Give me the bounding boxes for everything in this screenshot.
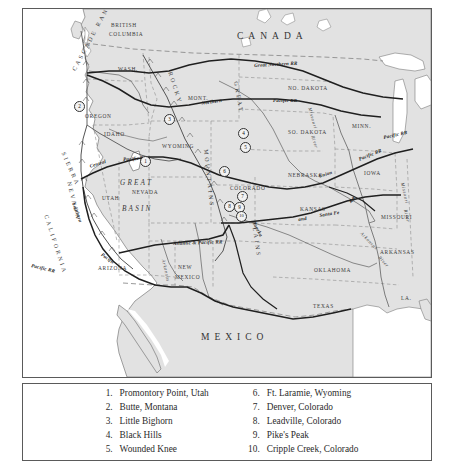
legend-item: 4.Black Hills [96, 430, 209, 442]
map-marker-6[interactable]: 6 [219, 166, 230, 177]
legend-item-label: Pike's Peak [267, 430, 309, 442]
legend-item-label: Wounded Knee [120, 444, 177, 456]
legend-item-number: 1. [96, 388, 113, 400]
legend-item-number: 5. [96, 444, 113, 456]
legend-item-number: 2. [96, 402, 113, 414]
legend-item: 6.Ft. Laramie, Wyoming [243, 388, 359, 400]
legend-item: 5.Wounded Knee [96, 444, 209, 456]
legend-item-label: Ft. Laramie, Wyoming [267, 388, 351, 400]
legend-item-number: 10. [243, 444, 260, 456]
legend-item: 8.Leadville, Colorado [243, 416, 359, 428]
legend-item-number: 4. [96, 430, 113, 442]
gulf-of-mexico [353, 305, 431, 377]
map-marker-4[interactable]: 4 [238, 128, 249, 139]
legend-item: 1.Promontory Point, Utah [96, 388, 209, 400]
legend-item-number: 8. [243, 416, 260, 428]
map-marker-3[interactable]: 3 [164, 114, 175, 125]
legend-item-number: 7. [243, 402, 260, 414]
map-marker-7[interactable]: 7 [237, 191, 248, 202]
legend-item-label: Black Hills [120, 430, 162, 442]
legend-item-label: Butte, Montana [120, 402, 178, 414]
legend-item: 10.Cripple Creek, Colorado [243, 444, 359, 456]
legend-item-number: 9. [243, 430, 260, 442]
map-marker-2[interactable]: 2 [74, 101, 85, 112]
map-panel: CANADAMEXICOBRITISHCOLUMBIAWASH.OREGONID… [22, 8, 432, 378]
map-marker-10[interactable]: 10 [236, 211, 247, 222]
legend-item-label: Promontory Point, Utah [120, 388, 209, 400]
legend-panel: 1.Promontory Point, Utah2.Butte, Montana… [22, 383, 432, 461]
legend-item: 2.Butte, Montana [96, 402, 209, 414]
legend-item-label: Denver, Colorado [267, 402, 333, 414]
legend-item: 9.Pike's Peak [243, 430, 359, 442]
legend-item-label: Cripple Creek, Colorado [267, 444, 359, 456]
lake-huron-erie [415, 75, 431, 109]
legend-column-right: 6.Ft. Laramie, Wyoming7.Denver, Colorado… [243, 388, 359, 456]
legend-item-number: 6. [243, 388, 260, 400]
legend-item-label: Little Bighorn [120, 416, 173, 428]
legend-item: 3.Little Bighorn [96, 416, 209, 428]
map-marker-5[interactable]: 5 [240, 142, 251, 153]
legend-column-left: 1.Promontory Point, Utah2.Butte, Montana… [96, 388, 209, 456]
legend-item-label: Leadville, Colorado [267, 416, 341, 428]
legend-item-number: 3. [96, 416, 113, 428]
map-graphic [23, 9, 431, 377]
map-marker-1[interactable]: 1 [140, 156, 151, 167]
map-page: CANADAMEXICOBRITISHCOLUMBIAWASH.OREGONID… [0, 0, 452, 470]
legend-item: 7.Denver, Colorado [243, 402, 359, 414]
